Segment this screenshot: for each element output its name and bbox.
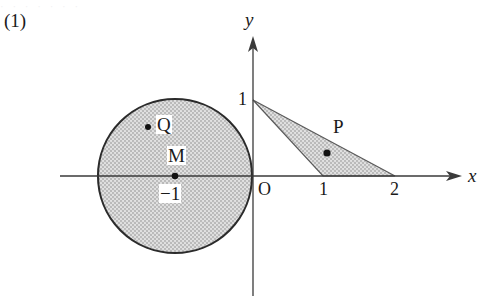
origin-label: O [258, 180, 271, 198]
circle-center-value-label: −1 [159, 184, 181, 203]
point-P-marker [323, 149, 330, 156]
point-M-label: M [167, 146, 186, 165]
figure-canvas: · · · · · · · (1) y x O 1 1 2 Q [0, 0, 489, 306]
point-Q-marker [145, 124, 151, 130]
x-axis-label: x [468, 166, 476, 185]
point-P-label: P [333, 117, 344, 136]
problem-number-label: (1) [4, 11, 26, 30]
point-Q-label: Q [156, 115, 172, 134]
coordinate-plane-graphic [0, 0, 489, 306]
point-M-marker [172, 173, 179, 180]
shaded-triangle-region [253, 100, 395, 176]
x-tick-2-label: 2 [390, 180, 399, 198]
y-axis-label: y [245, 10, 253, 29]
x-tick-1-label: 1 [319, 180, 328, 198]
y-tick-1-label: 1 [238, 90, 247, 108]
